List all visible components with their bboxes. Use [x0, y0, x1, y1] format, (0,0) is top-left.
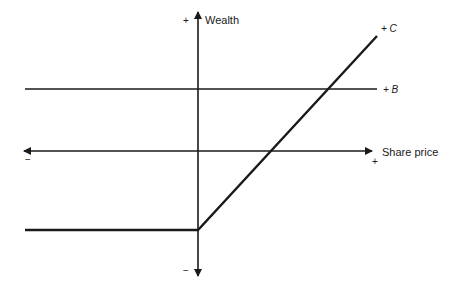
- y-axis-label: Wealth: [205, 14, 239, 26]
- x-positive-sign: +: [372, 156, 378, 168]
- x-negative-sign: −: [25, 154, 31, 166]
- line-c: [25, 36, 377, 230]
- x-axis-label: Share price: [382, 146, 438, 158]
- line-b-label: + B: [383, 84, 398, 96]
- y-negative-sign: −: [183, 265, 189, 277]
- y-positive-sign: +: [183, 15, 189, 27]
- line-c-label: + C: [381, 23, 397, 35]
